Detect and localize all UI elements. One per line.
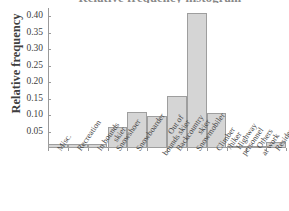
y-tick-label: 0.20 bbox=[26, 76, 43, 86]
y-tick-label: 0.10 bbox=[26, 109, 43, 119]
relative-frequency-histogram: Relative frequency histogram Relative fr… bbox=[0, 0, 289, 211]
y-tick-label: 0.25 bbox=[26, 60, 43, 70]
y-tick-label: 0.15 bbox=[26, 93, 43, 103]
y-tick-label: 0.40 bbox=[26, 10, 43, 20]
y-tick-label: 0.05 bbox=[26, 126, 43, 136]
x-axis-labels: Misc.RecreationIn boundsskierSnowshoerSn… bbox=[0, 148, 289, 211]
chart-title: Relative frequency histogram bbox=[40, 0, 280, 3]
y-tick-label: 0.35 bbox=[26, 27, 43, 37]
y-tick-label: 0.30 bbox=[26, 43, 43, 53]
y-axis-title: Relative frequency bbox=[9, 0, 24, 134]
